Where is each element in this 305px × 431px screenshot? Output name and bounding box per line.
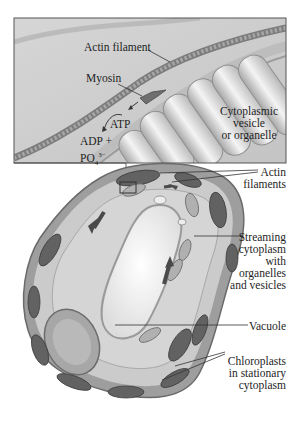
- diagram-canvas: Actin filament Myosin ATP ADP + PO43− Cy…: [0, 0, 305, 431]
- label-streaming-cytoplasm: Streaming cytoplasm with organelles and …: [220, 231, 286, 291]
- label-adp: ADP +: [80, 135, 112, 147]
- label-actin-filaments: Actin filaments: [230, 166, 286, 190]
- label-phosphate: PO43−: [80, 149, 106, 169]
- label-cytoplasmic-vesicle: Cytoplasmic vesicle or organelle: [212, 105, 286, 141]
- label-myosin: Myosin: [86, 72, 121, 84]
- label-chloroplasts: Chloroplasts in stationary cytoplasm: [210, 355, 286, 391]
- label-actin-filament: Actin filament: [84, 41, 151, 53]
- label-atp: ATP: [110, 118, 130, 130]
- label-vacuole: Vacuole: [230, 320, 286, 332]
